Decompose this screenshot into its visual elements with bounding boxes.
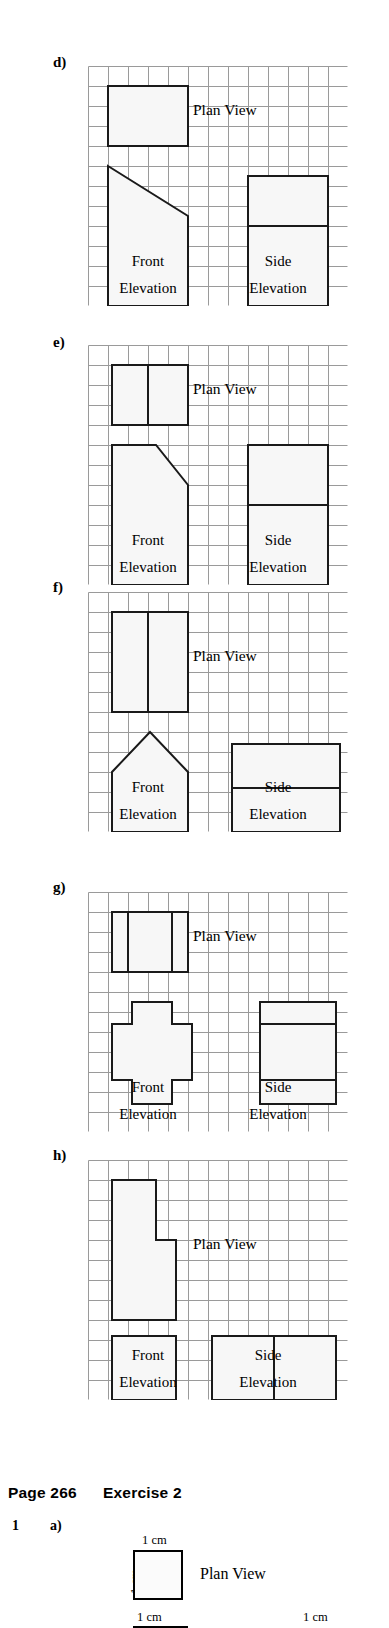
side-elevation-sublabel: Elevation: [249, 280, 307, 296]
front-elevation-label: Front: [132, 532, 165, 548]
front-elevation-label: Front: [132, 779, 165, 795]
question-1a-figure: 1 cm 1 cm Plan View 1 cm 1 cm: [0, 1530, 389, 1624]
dimension-label-bottom-left: 1 cm: [137, 1610, 162, 1625]
exercise-heading-page: Page 266: [8, 1484, 77, 1502]
panel-letter-f: f): [53, 580, 63, 595]
panel-letter-e: e): [53, 335, 65, 350]
front-elevation-label: Front: [132, 1347, 165, 1363]
plan-view-square: [133, 1550, 183, 1600]
side-elevation-label: Side: [265, 1079, 292, 1095]
plan-view-label: Plan View: [193, 1235, 258, 1252]
side-elevation-label: Side: [265, 532, 292, 548]
side-elevation-sublabel: Elevation: [249, 806, 307, 822]
grid-d: Plan ViewFrontElevationSideElevation: [88, 66, 348, 306]
side-elevation-sublabel: Elevation: [249, 1106, 307, 1122]
front-elevation-sublabel: Elevation: [119, 1106, 177, 1122]
grid-e: Plan ViewFrontElevationSideElevation: [88, 345, 348, 585]
plan-view-label: Plan View: [193, 101, 258, 118]
front-elevation-sublabel: Elevation: [119, 1374, 177, 1390]
grid-h: Plan ViewFrontElevationSideElevation: [88, 1160, 348, 1400]
dimension-label-bottom-right: 1 cm: [303, 1610, 328, 1625]
dimension-label-top: 1 cm: [142, 1533, 167, 1548]
plan-view-rect: [112, 612, 188, 712]
front-elevation-label: Front: [132, 253, 165, 269]
plan-view-label: Plan View: [193, 927, 258, 944]
panel-letter-h: h): [53, 1148, 66, 1163]
front-elevation-sublabel: Elevation: [119, 806, 177, 822]
exercise-heading-exercise: Exercise 2: [103, 1484, 182, 1502]
side-elevation-label: Side: [265, 253, 292, 269]
panel-letter-d: d): [53, 55, 66, 70]
plan-view-label: Plan View: [200, 1565, 266, 1583]
front-elevation-rect: [112, 1336, 176, 1400]
plan-view-label: Plan View: [193, 647, 258, 664]
grid-f: Plan ViewFrontElevationSideElevation: [88, 592, 348, 832]
grid-g: Plan ViewFrontElevationSideElevation: [88, 892, 348, 1132]
front-elevation-sublabel: Elevation: [119, 280, 177, 296]
plan-view-rect: [112, 365, 188, 425]
plan-view-label: Plan View: [193, 380, 258, 397]
side-elevation-label: Side: [265, 779, 292, 795]
side-elevation-sublabel: Elevation: [239, 1374, 297, 1390]
panel-letter-g: g): [53, 880, 66, 895]
plan-view-rect: [112, 912, 188, 972]
plan-view-rect: [108, 86, 188, 146]
front-elevation-label: Front: [132, 1079, 165, 1095]
side-elevation-sublabel: Elevation: [249, 559, 307, 575]
side-elevation-label: Side: [255, 1347, 282, 1363]
dimension-rule-bottom-left: [133, 1626, 188, 1628]
front-elevation-sublabel: Elevation: [119, 559, 177, 575]
